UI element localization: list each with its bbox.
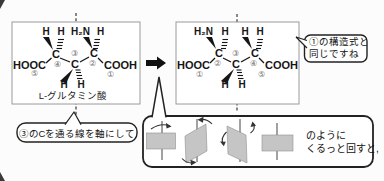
same-structure-bubble: ①の構造式と 同じですね <box>296 35 369 62</box>
atom-c2: C <box>90 47 98 59</box>
scan-artifact <box>0 172 5 181</box>
atom-h: H <box>57 26 64 37</box>
axis-note-bubble: ③のCを通る線を軸にして <box>17 112 137 142</box>
textbook-figure: H H H₂N H C C C H H HOOC COOH ⑤ ④ ③ ② ① … <box>0 0 384 181</box>
group-cooh: COOH <box>265 59 298 71</box>
rounded-box <box>143 116 373 167</box>
atom-h: H <box>42 26 49 37</box>
bubble-text-line2: 同じですね <box>309 48 359 59</box>
carbon-number-5: ⑤ <box>31 69 38 78</box>
atom-h: H <box>221 79 228 90</box>
carbon-number-3: ③ <box>71 49 78 58</box>
atom-c3: C <box>71 58 79 70</box>
atom-h: H <box>60 79 67 90</box>
molecule-caption: L-グルタミン酸 <box>39 90 107 101</box>
atom-h: H <box>241 26 248 37</box>
carbon-number-4: ④ <box>250 59 257 68</box>
carbon-number-2: ② <box>214 59 221 68</box>
bubble-text-line1: ①の構造式と <box>309 36 369 47</box>
atom-h2n: H₂N <box>71 26 90 37</box>
atom-c4: C <box>251 47 259 59</box>
carbon-number-1: ① <box>196 70 203 79</box>
group-hooc: HOOC <box>177 59 210 71</box>
rotate-text-line1: のように <box>306 130 346 141</box>
atom-h: H <box>97 26 104 37</box>
atom-h: H <box>238 79 245 90</box>
atom-h: H <box>77 79 84 90</box>
atom-h2n: H₂N <box>194 26 213 37</box>
axis-note-text: ③のCを通る線を軸にして <box>19 128 136 139</box>
carbon-number-3: ③ <box>232 49 239 58</box>
scan-artifact <box>0 0 5 9</box>
bubble-tail <box>65 112 81 125</box>
carbon-number-4: ④ <box>54 60 61 69</box>
carbon-number-1: ① <box>107 70 114 79</box>
carbon-number-2: ② <box>89 59 96 68</box>
box-pointer-tail <box>152 77 166 117</box>
carbon-number-5: ⑤ <box>258 70 265 79</box>
atom-c3: C <box>232 58 240 70</box>
atom-c4: C <box>52 48 60 60</box>
atom-h: H <box>256 26 263 37</box>
atom-h: H <box>221 26 228 37</box>
atom-c2: C <box>215 47 223 59</box>
transform-arrow-icon <box>146 57 166 70</box>
rotate-text-line2: くるっと回すと, <box>306 143 379 154</box>
